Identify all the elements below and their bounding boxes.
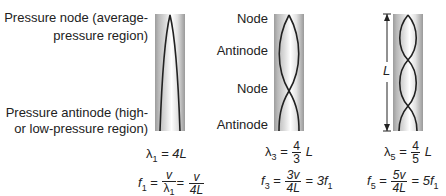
subscript: 1	[153, 154, 158, 164]
length-symbol: L	[306, 144, 313, 159]
pressure-antinode-label-line2: or low-pressure region)	[6, 121, 148, 137]
denominator: 5	[411, 153, 420, 165]
node-label-top: Node	[237, 11, 268, 27]
equals-sign: =	[161, 146, 169, 161]
pressure-antinode-label: Pressure antinode (high- or low-pressure…	[6, 105, 148, 137]
harmonic-multiple: 5f	[423, 173, 434, 188]
fraction: v4L	[189, 171, 204, 196]
subscript: 3	[265, 181, 270, 191]
frequency-equation-1: f1 = vλ1= v4L	[138, 169, 205, 196]
antinode-label-bottom: Antinode	[217, 117, 268, 133]
equals-sign: =	[150, 175, 158, 190]
pressure-antinode-label-line1: Pressure antinode (high-	[6, 105, 148, 121]
equals-sign: =	[280, 144, 288, 159]
pressure-node-label-line1: Pressure node (average-	[4, 10, 148, 26]
frequency-equation-3: f3 = 3v4L = 3f1	[261, 169, 333, 194]
wavelength-value: 4L	[172, 146, 186, 161]
length-symbol: L	[425, 144, 432, 159]
subscript: 1	[328, 181, 333, 191]
denominator: 4L	[189, 184, 204, 196]
pressure-node-label-line2: pressure region)	[4, 28, 148, 44]
fraction: 3v4L	[285, 169, 300, 194]
pressure-node-label: Pressure node (average- pressure region)	[4, 10, 148, 44]
wavelength-equation-5: λ5 = 45 L	[384, 140, 432, 165]
equals-sign: =	[411, 173, 419, 188]
length-label: L	[383, 63, 390, 79]
harmonic-multiple: 3f	[317, 173, 328, 188]
fraction: vλ1	[162, 169, 175, 196]
tube-third-harmonic	[274, 14, 304, 131]
antinode-label-upper: Antinode	[217, 43, 268, 59]
subscript: 5	[391, 152, 396, 162]
equals-sign: =	[177, 175, 185, 190]
fraction: 45	[411, 140, 420, 165]
standing-wave-fifth-harmonic	[393, 14, 423, 131]
tube-first-harmonic	[155, 14, 185, 131]
subscript: 5	[371, 181, 376, 191]
fraction: 43	[292, 140, 301, 165]
denominator: 4L	[391, 182, 406, 194]
fraction: 5v4L	[391, 169, 406, 194]
wavelength-equation-1: λ1 = 4L	[146, 146, 187, 167]
equals-sign: =	[305, 173, 313, 188]
subscript: 1	[434, 181, 439, 191]
frequency-equation-5: f5 = 5v4L = 5f1	[367, 169, 439, 194]
equals-sign: =	[399, 144, 407, 159]
subscript: 1	[142, 183, 147, 193]
node-label-middle: Node	[237, 81, 268, 97]
denominator: 3	[292, 153, 301, 165]
equals-sign: =	[273, 173, 281, 188]
tube-fifth-harmonic	[393, 14, 423, 131]
subscript: 3	[272, 152, 277, 162]
wavelength-equation-3: λ3 = 43 L	[265, 140, 313, 165]
equals-sign: =	[379, 173, 387, 188]
standing-wave-first-harmonic	[155, 14, 185, 131]
denominator: λ1	[162, 182, 175, 196]
denominator: 4L	[285, 182, 300, 194]
standing-wave-third-harmonic	[274, 14, 304, 131]
subscript: 1	[169, 187, 174, 196]
